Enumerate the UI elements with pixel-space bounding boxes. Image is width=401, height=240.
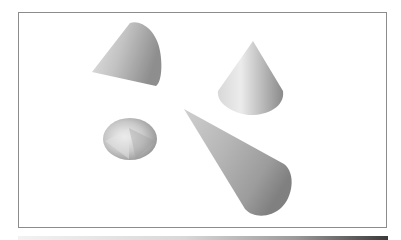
- cone-viewed-from-top: [103, 118, 157, 160]
- cones-illustration: [1, 1, 401, 240]
- bottom-gradient-bar: [18, 236, 388, 240]
- cone-tilted-top-left: [92, 22, 161, 86]
- figure-frame: [18, 12, 387, 228]
- cone-upright-top-right: [218, 41, 283, 115]
- cone-elongated-center: [184, 109, 292, 216]
